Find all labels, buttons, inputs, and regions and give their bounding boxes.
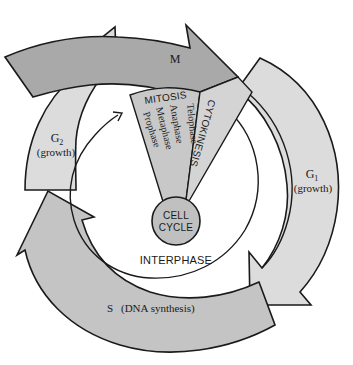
- inner-arrowhead-icon: [113, 112, 122, 121]
- s-arrow: [17, 191, 275, 352]
- m-label: M: [170, 52, 181, 66]
- center-label-line2: CYCLE: [159, 222, 193, 233]
- g2-note: (growth): [37, 146, 76, 159]
- m-arrow: [5, 25, 238, 100]
- interphase-label: INTERPHASE: [140, 254, 212, 266]
- cell-cycle-diagram: M G2 (growth) G1 (growth) S (DNA synthes…: [0, 0, 353, 365]
- s-note: (DNA synthesis): [121, 302, 195, 315]
- g1-note: (growth): [294, 182, 333, 195]
- cell-cycle-center: [152, 197, 200, 245]
- center-label-line1: CELL: [163, 210, 189, 221]
- s-label: S: [107, 302, 113, 314]
